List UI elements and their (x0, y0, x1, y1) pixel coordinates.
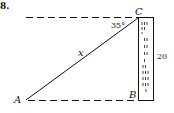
angle-label: 35° (111, 21, 125, 30)
point-b-label: B (128, 89, 136, 100)
triangle-diagram: 8. C A B x 35° 20 (0, 0, 174, 113)
height-label: 20 (157, 52, 167, 61)
problem-number: 8. (0, 1, 9, 11)
hypotenuse-label: x (78, 47, 84, 58)
hypotenuse-line (26, 18, 138, 100)
building-rect (139, 18, 154, 101)
point-a-label: A (13, 94, 21, 105)
point-c-label: C (135, 6, 143, 17)
